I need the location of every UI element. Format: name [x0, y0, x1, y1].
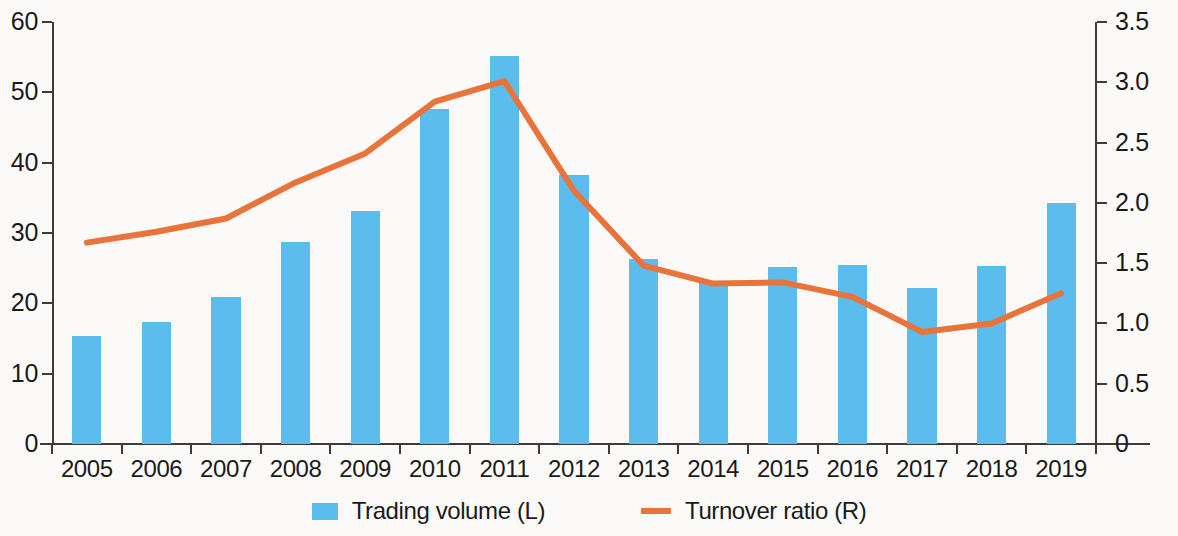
x-axis-tick [51, 445, 53, 454]
right-axis-tick-label: 0 [1115, 431, 1129, 456]
x-axis-tick [747, 445, 749, 454]
right-axis-tick-label: 2.0 [1115, 190, 1149, 215]
x-axis-tick [538, 445, 540, 454]
x-axis-tick [1095, 445, 1097, 454]
x-axis-tick-label: 2015 [743, 455, 823, 483]
right-axis-tick [1097, 443, 1107, 445]
right-axis-tick [1097, 322, 1107, 324]
right-axis-tick-label: 1.0 [1115, 310, 1149, 335]
x-axis-tick-label: 2011 [464, 455, 544, 483]
x-axis-tick-label: 2018 [952, 455, 1032, 483]
left-axis-tick-label: 30 [11, 220, 38, 245]
x-axis-tick-label: 2014 [673, 455, 753, 483]
left-axis-tick [42, 232, 52, 234]
x-axis-tick [329, 445, 331, 454]
bar [420, 109, 449, 444]
left-axis-tick [42, 91, 52, 93]
right-axis-tick-label: 3.0 [1115, 69, 1149, 94]
x-axis-tick-label: 2017 [882, 455, 962, 483]
right-axis-tick [1097, 142, 1107, 144]
left-axis-tick-label: 10 [11, 361, 38, 386]
bar [907, 288, 936, 444]
x-axis-tick-label: 2005 [47, 455, 127, 483]
bar-series [52, 22, 1096, 444]
right-axis-tick [1097, 81, 1107, 83]
bar [490, 56, 519, 444]
x-axis-tick [190, 445, 192, 454]
right-axis-tick [1097, 262, 1107, 264]
bar [351, 211, 380, 444]
right-axis-tick-label: 2.5 [1115, 130, 1149, 155]
bar [629, 259, 658, 444]
left-axis-tick [42, 162, 52, 164]
left-axis-tick-label: 40 [11, 150, 38, 175]
legend-label-turnover-ratio: Turnover ratio (R) [685, 498, 866, 524]
bar [559, 175, 588, 444]
x-axis-tick [608, 445, 610, 454]
x-axis-tick [399, 445, 401, 454]
bar [211, 297, 240, 444]
right-axis-tick-label: 3.5 [1115, 9, 1149, 34]
right-axis-tick [1097, 202, 1107, 204]
legend-line-swatch-icon [641, 508, 671, 514]
right-axis-tick-label: 0.5 [1115, 371, 1149, 396]
x-axis-tick [260, 445, 262, 454]
left-axis-tick [42, 373, 52, 375]
x-axis-tick-label: 2012 [534, 455, 614, 483]
legend-item-turnover-ratio: Turnover ratio (R) [641, 498, 866, 524]
chart-legend: Trading volume (L) Turnover ratio (R) [0, 498, 1178, 524]
x-axis-tick-label: 2007 [186, 455, 266, 483]
x-axis-tick [469, 445, 471, 454]
bar [281, 242, 310, 444]
right-axis-tick [1097, 383, 1107, 385]
x-axis-tick-label: 2009 [325, 455, 405, 483]
x-axis-tick [121, 445, 123, 454]
x-axis-tick-label: 2019 [1021, 455, 1101, 483]
legend-label-trading-volume: Trading volume (L) [352, 498, 545, 524]
x-axis-tick [1025, 445, 1027, 454]
legend-item-trading-volume: Trading volume (L) [312, 498, 545, 524]
x-axis-tick [677, 445, 679, 454]
dual-axis-chart: 0102030405060 00.51.01.52.02.53.03.5 200… [0, 0, 1178, 536]
right-axis-tick [1097, 21, 1107, 23]
bar [977, 266, 1006, 444]
x-axis-tick-label: 2006 [116, 455, 196, 483]
right-axis-tick-label: 1.5 [1115, 250, 1149, 275]
x-axis-tick [956, 445, 958, 454]
x-axis-tick [817, 445, 819, 454]
bar [768, 267, 797, 444]
bar [142, 322, 171, 444]
left-axis-tick-label: 60 [11, 9, 38, 34]
left-axis-tick-label: 20 [11, 290, 38, 315]
bar [1047, 203, 1076, 444]
legend-bar-swatch-icon [312, 503, 338, 520]
x-axis-tick-label: 2016 [812, 455, 892, 483]
left-axis-tick-label: 50 [11, 79, 38, 104]
left-axis-tick-label: 0 [24, 431, 38, 456]
bar [699, 282, 728, 444]
x-axis-tick-label: 2008 [256, 455, 336, 483]
bar [838, 265, 867, 444]
x-axis-tick [886, 445, 888, 454]
left-axis-tick [42, 21, 52, 23]
x-axis-tick-label: 2013 [604, 455, 684, 483]
left-axis-tick [42, 302, 52, 304]
x-axis-tick-label: 2010 [395, 455, 475, 483]
bar [72, 336, 101, 444]
